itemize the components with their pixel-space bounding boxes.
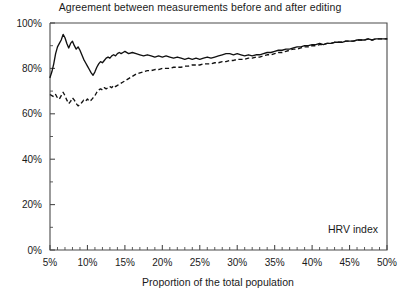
y-tick-label: 0% (28, 245, 43, 256)
x-tick-label: 40% (302, 257, 322, 268)
x-tick-label: 15% (115, 257, 135, 268)
x-axis-tick-labels: 5%10%15%20%25%30%35%40%45%50% (43, 257, 397, 268)
x-tick-label: 10% (77, 257, 97, 268)
series-line-after-editing (50, 39, 387, 106)
plot-frame (50, 23, 387, 250)
y-tick-label: 80% (22, 63, 42, 74)
chart-screenshot: Agreement between measurements before an… (0, 0, 400, 306)
x-axis-title: Proportion of the total population (142, 276, 294, 288)
x-tick-label: 25% (190, 257, 210, 268)
x-tick-label: 20% (152, 257, 172, 268)
x-tick-label: 45% (340, 257, 360, 268)
axis-tick-marks (50, 23, 387, 250)
y-tick-label: 100% (16, 18, 42, 29)
x-tick-label: 50% (377, 257, 397, 268)
hrv-index-annotation: HRV index (328, 223, 379, 235)
line-chart-plot: 0%20%40%60%80%100% 5%10%15%20%25%30%35%4… (0, 0, 400, 306)
y-tick-label: 40% (22, 154, 42, 165)
y-axis-tick-labels: 0%20%40%60%80%100% (16, 18, 42, 256)
x-tick-label: 35% (265, 257, 285, 268)
series-line-before-editing (50, 34, 387, 77)
x-tick-label: 5% (43, 257, 58, 268)
x-tick-label: 30% (227, 257, 247, 268)
y-tick-label: 60% (22, 108, 42, 119)
y-tick-label: 20% (22, 199, 42, 210)
